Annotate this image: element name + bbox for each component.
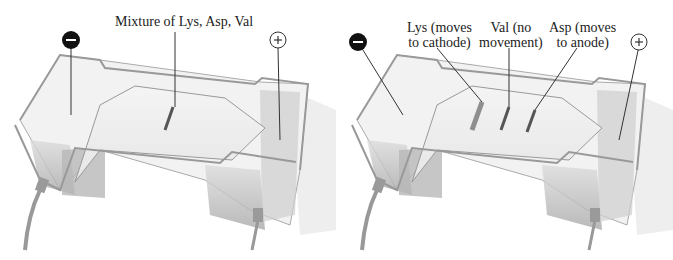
panel-before: Mixture of Lys, Asp, Val (0, 0, 336, 260)
asp-label: Asp (moves to anode) (549, 20, 616, 50)
panel-after: Lys (moves to cathode) Val (no movement)… (337, 0, 673, 260)
mixture-label: Mixture of Lys, Asp, Val (115, 14, 253, 29)
val-label: Val (no movement) (479, 20, 543, 50)
electrophoresis-tank-before (0, 0, 336, 260)
lys-label: Lys (moves to cathode) (407, 20, 472, 50)
